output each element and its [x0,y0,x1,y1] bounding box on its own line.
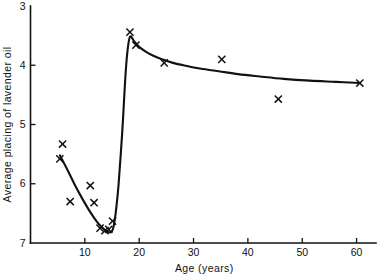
data-point-markers [56,28,363,234]
y-axis-title: Average placing of lavender oil [1,47,13,203]
x-tick-label: 60 [351,246,363,258]
fitted-curve [60,36,360,232]
x-tick-label: 20 [133,246,145,258]
data-point-marker [218,56,225,63]
y-tick-label: 6 [20,177,26,189]
data-point-marker [59,140,66,147]
y-tick-label: 3 [20,0,26,12]
data-point-marker [87,182,94,189]
y-tick-label: 7 [20,237,26,249]
x-axis-title: Age (years) [175,262,234,274]
y-tick-label: 5 [20,118,26,130]
data-point-marker [126,28,133,35]
x-tick-label: 50 [296,246,308,258]
data-point-marker [275,95,282,102]
y-tick-label: 4 [20,59,26,71]
x-tick-label: 30 [188,246,200,258]
data-point-marker [67,198,74,205]
x-tick-label: 10 [79,246,91,258]
x-axis-tick-labels: 102030405060 [79,246,363,258]
chart-figure: 102030405060 34567 Age (years) Average p… [0,0,379,277]
x-tick-label: 40 [242,246,254,258]
data-point-marker [90,199,97,206]
y-axis-tick-labels: 34567 [20,0,26,249]
scatter-plot: 102030405060 34567 Age (years) Average p… [0,0,379,277]
